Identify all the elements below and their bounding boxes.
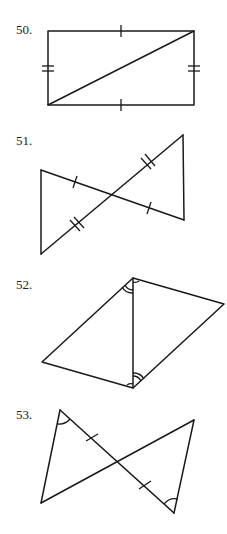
quadrilateral-diagram (42, 278, 224, 388)
geometry-diagrams (0, 0, 227, 534)
crossing-triangles-diagram (41, 410, 194, 513)
bowtie-triangles-diagram (41, 135, 184, 254)
rectangle-diagram (42, 25, 200, 111)
